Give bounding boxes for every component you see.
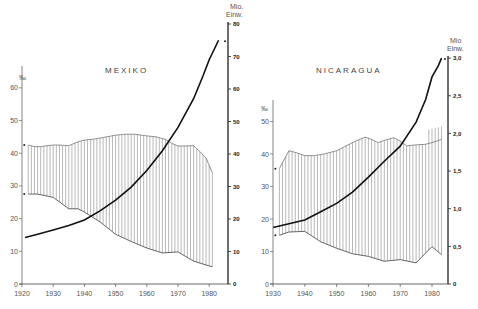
right-tick-label: 50 bbox=[233, 119, 240, 125]
right-tick-label: 0,5 bbox=[453, 244, 462, 250]
right-tick-label: 70 bbox=[233, 54, 240, 60]
x-tick-label: 1960 bbox=[361, 290, 377, 297]
population-marker bbox=[444, 58, 446, 60]
x-tick-label: 1970 bbox=[170, 290, 186, 297]
x-tick-label: 1980 bbox=[424, 290, 440, 297]
right-tick-label: 0 bbox=[233, 281, 237, 287]
nicaragua-left-unit: ‰ bbox=[261, 105, 268, 112]
left-tick-label: 30 bbox=[10, 182, 18, 189]
right-tick-label: 80 bbox=[233, 21, 240, 27]
nicaragua-hatching bbox=[279, 126, 441, 263]
nicaragua-right-unit-line1: Mio bbox=[450, 37, 461, 44]
x-tick-label: 1950 bbox=[108, 290, 124, 297]
x-tick-label: 1940 bbox=[77, 290, 93, 297]
left-tick-label: 60 bbox=[10, 84, 18, 91]
birth-rate-marker bbox=[274, 168, 276, 170]
chart-canvas: 0102030405060192019301940195019601970198… bbox=[0, 0, 478, 309]
right-tick-label: 3,0 bbox=[453, 55, 462, 61]
right-tick-label: 30 bbox=[233, 184, 240, 190]
right-tick-label: 60 bbox=[233, 86, 240, 92]
nicaragua-right-unit-line2: Einw. bbox=[447, 45, 464, 52]
left-tick-label: 0 bbox=[14, 281, 18, 288]
mexiko-right-unit-line1: Mio. bbox=[230, 3, 243, 10]
death-rate-marker bbox=[274, 234, 276, 236]
nicaragua-death-rate-line bbox=[279, 231, 441, 263]
mexiko-title: MEXIKO bbox=[105, 66, 148, 75]
left-tick-label: 20 bbox=[261, 216, 269, 223]
nicaragua-title: NICARAGUA bbox=[316, 66, 382, 75]
nicaragua-chart: 0102030405019301940195019601970198000,51… bbox=[261, 37, 464, 297]
right-tick-label: 20 bbox=[233, 216, 240, 222]
right-tick-label: 1,0 bbox=[453, 206, 462, 212]
death-rate-marker bbox=[23, 193, 25, 195]
left-tick-label: 10 bbox=[261, 248, 269, 255]
mexiko-left-unit: ‰ bbox=[19, 74, 26, 81]
left-tick-label: 40 bbox=[10, 150, 18, 157]
right-tick-label: 40 bbox=[233, 151, 240, 157]
left-tick-label: 30 bbox=[261, 183, 269, 190]
x-tick-label: 1940 bbox=[297, 290, 313, 297]
right-tick-label: 2,5 bbox=[453, 93, 462, 99]
left-tick-label: 50 bbox=[10, 117, 18, 124]
right-tick-label: 10 bbox=[233, 249, 240, 255]
x-tick-label: 1950 bbox=[329, 290, 345, 297]
x-tick-label: 1960 bbox=[139, 290, 155, 297]
left-tick-label: 20 bbox=[10, 215, 18, 222]
right-tick-label: 1,5 bbox=[453, 168, 462, 174]
x-tick-label: 1930 bbox=[265, 290, 281, 297]
x-tick-label: 1930 bbox=[45, 290, 61, 297]
left-tick-label: 0 bbox=[265, 281, 269, 288]
x-tick-label: 1980 bbox=[201, 290, 217, 297]
mexiko-birth-rate-line bbox=[28, 134, 212, 173]
right-tick-label: 2,0 bbox=[453, 131, 462, 137]
mexiko-hatching bbox=[28, 134, 212, 266]
left-tick-label: 50 bbox=[261, 118, 269, 125]
population-marker bbox=[224, 40, 226, 42]
left-tick-label: 10 bbox=[10, 248, 18, 255]
x-tick-label: 1920 bbox=[14, 290, 30, 297]
mexiko-chart: 0102030405060192019301940195019601970198… bbox=[10, 3, 243, 297]
mexiko-death-rate-line bbox=[28, 194, 212, 267]
birth-rate-marker bbox=[23, 144, 25, 146]
nicaragua-birth-rate-line bbox=[279, 137, 441, 169]
x-tick-label: 1970 bbox=[392, 290, 408, 297]
mexiko-right-unit-line2: Einw. bbox=[226, 11, 243, 18]
left-tick-label: 40 bbox=[261, 151, 269, 158]
right-tick-label: 0 bbox=[453, 281, 457, 287]
